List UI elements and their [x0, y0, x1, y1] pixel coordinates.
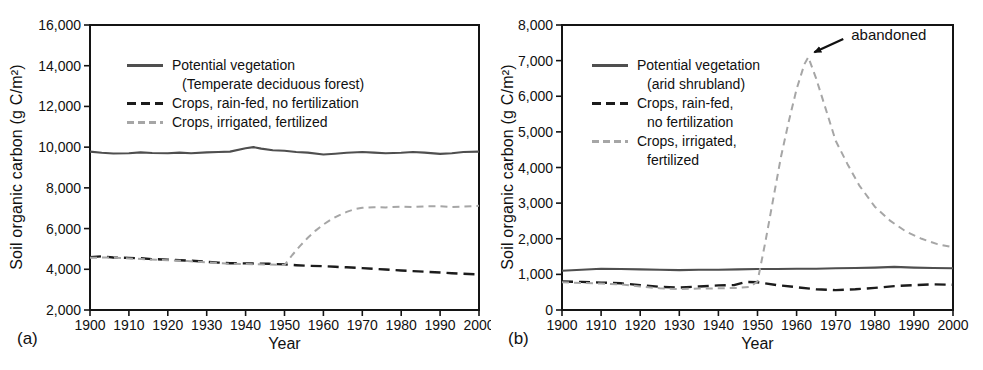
panel-b: 1900191019201930194019501960197019801990… [491, 0, 983, 370]
y-tick-label: 14,000 [38, 58, 81, 74]
x-tick-label: 1970 [347, 317, 378, 333]
legend-label: Potential vegetation(arid shrubland) [637, 56, 760, 94]
legend-marker-light-dash-icon [592, 140, 628, 143]
x-tick-label: 1990 [898, 317, 929, 333]
legend-item-potential-vegetation: Potential vegetation(Temperate deciduous… [127, 56, 364, 94]
y-tick-label: 8,000 [46, 180, 81, 196]
legend-marker-solid-icon [127, 64, 163, 67]
x-tick-label: 1930 [664, 317, 695, 333]
y-axis-label-b: Soil organic carbon (g C/m²) [499, 64, 517, 270]
y-tick-label: 3,000 [518, 195, 553, 211]
legend-item-crops-irrigated-fertilized: Crops, irrigated, fertilized [127, 113, 364, 132]
x-tick-label: 1910 [586, 317, 617, 333]
y-tick-label: 4,000 [46, 261, 81, 277]
y-tick-label: 7,000 [518, 53, 553, 69]
y-tick-label: 0 [545, 302, 553, 318]
x-tick-label: 1920 [152, 317, 183, 333]
legend-a: Potential vegetation(Temperate deciduous… [127, 56, 364, 132]
legend-label: Potential vegetation(Temperate deciduous… [172, 56, 364, 94]
y-tick-label: 4,000 [518, 160, 553, 176]
x-tick-label: 1990 [425, 317, 456, 333]
series-crops-irrigated-fertilized [90, 206, 479, 265]
series-crops-rain-fed [562, 282, 953, 291]
x-tick-label: 1920 [625, 317, 656, 333]
panel-letter-a: (a) [17, 329, 38, 349]
x-tick-label: 1900 [546, 317, 577, 333]
legend-item-crops-rain-fed: Crops, rain-fed,no fertilization [592, 94, 760, 132]
legend-label: Crops, irrigated, fertilized [172, 113, 328, 132]
series-potential-vegetation [562, 267, 953, 271]
x-tick-label: 1980 [859, 317, 890, 333]
legend-marker-long-dash-icon [127, 102, 163, 105]
panel-letter-b: (b) [508, 329, 529, 349]
y-tick-label: 6,000 [518, 88, 553, 104]
legend-item-crops-irrigated: Crops, irrigated,fertilized [592, 132, 760, 170]
x-axis-label-a: Year [90, 335, 479, 353]
y-tick-label: 1,000 [518, 266, 553, 282]
x-tick-label: 1910 [113, 317, 144, 333]
legend-label: Crops, rain-fed,no fertilization [637, 94, 733, 132]
legend-label: Crops, irrigated,fertilized [637, 132, 737, 170]
series-potential-vegetation [90, 147, 479, 154]
panel-a: 1900191019201930194019501960197019801990… [0, 0, 491, 370]
y-tick-label: 2,000 [518, 231, 553, 247]
abandoned-arrow [814, 39, 843, 52]
x-tick-label: 1950 [742, 317, 773, 333]
legend-marker-long-dash-icon [592, 102, 628, 105]
legend-marker-solid-icon [592, 64, 628, 67]
x-tick-label: 1960 [308, 317, 339, 333]
x-tick-label: 1900 [74, 317, 105, 333]
y-axis-label-a: Soil organic carbon (g C/m²) [8, 64, 26, 270]
x-tick-label: 1970 [820, 317, 851, 333]
y-tick-label: 5,000 [518, 124, 553, 140]
x-tick-label: 1980 [386, 317, 417, 333]
y-tick-label: 8,000 [518, 17, 553, 33]
y-tick-label: 12,000 [38, 98, 81, 114]
abandoned-annotation-text: abandoned [851, 26, 926, 43]
legend-b: Potential vegetation(arid shrubland)Crop… [592, 56, 760, 170]
x-tick-label: 2000 [937, 317, 968, 333]
legend-label: Crops, rain-fed, no fertilization [172, 94, 359, 113]
x-tick-label: 1940 [230, 317, 261, 333]
x-axis-label-b: Year [562, 335, 953, 353]
x-tick-label: 1960 [781, 317, 812, 333]
x-tick-label: 1950 [269, 317, 300, 333]
y-tick-label: 10,000 [38, 139, 81, 155]
y-tick-label: 16,000 [38, 17, 81, 33]
legend-item-crops-rain-fed-no-fertilization: Crops, rain-fed, no fertilization [127, 94, 364, 113]
legend-marker-light-dash-icon [127, 121, 163, 124]
legend-item-potential-vegetation: Potential vegetation(arid shrubland) [592, 56, 760, 94]
x-tick-label: 2000 [463, 317, 491, 333]
x-tick-label: 1940 [703, 317, 734, 333]
y-tick-label: 6,000 [46, 221, 81, 237]
x-tick-label: 1930 [191, 317, 222, 333]
y-tick-label: 2,000 [46, 302, 81, 318]
